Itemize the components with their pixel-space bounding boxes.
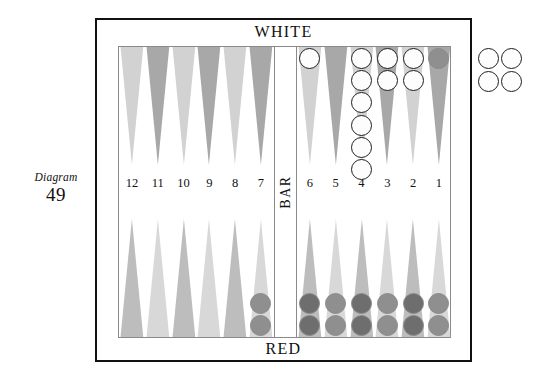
- point-8-bottom[interactable]: [222, 219, 248, 337]
- checker-white-point-2[interactable]: [403, 48, 424, 69]
- borne-off-checker-white[interactable]: [478, 71, 499, 92]
- checker-white-point-4[interactable]: [351, 48, 372, 69]
- checker-white-point-4[interactable]: [351, 137, 372, 158]
- checker-red-point-7[interactable]: [250, 293, 271, 314]
- point-5-top[interactable]: [323, 47, 349, 165]
- point-number-6: 6: [297, 176, 323, 191]
- checker-white-point-3[interactable]: [377, 48, 398, 69]
- point-number-5: 5: [323, 176, 349, 191]
- point-numbers-row: 121110987654321: [119, 176, 450, 210]
- checker-red-point-2[interactable]: [403, 315, 424, 336]
- point-number-10: 10: [171, 176, 197, 191]
- point-8-top[interactable]: [222, 47, 248, 165]
- borne-off-checker-white[interactable]: [478, 48, 499, 69]
- board-playing-surface: BAR 121110987654321: [118, 46, 451, 338]
- checker-red-point-2[interactable]: [403, 293, 424, 314]
- borne-off-tray[interactable]: [478, 48, 528, 98]
- point-number-11: 11: [145, 176, 171, 191]
- checker-white-point-3[interactable]: [377, 70, 398, 91]
- point-number-1: 1: [426, 176, 452, 191]
- point-number-3: 3: [374, 176, 400, 191]
- checker-white-point-4[interactable]: [351, 159, 372, 180]
- player-label-white: WHITE: [97, 23, 470, 41]
- point-10-bottom[interactable]: [171, 219, 197, 337]
- checker-white-point-4[interactable]: [351, 115, 372, 136]
- backgammon-board-frame: WHITE RED BAR 121110987654321: [95, 18, 472, 362]
- checker-red-point-1[interactable]: [428, 293, 449, 314]
- point-11-top[interactable]: [145, 47, 171, 165]
- point-7-top[interactable]: [248, 47, 274, 165]
- point-11-bottom[interactable]: [145, 219, 171, 337]
- checker-red-point-5[interactable]: [325, 293, 346, 314]
- point-9-top[interactable]: [196, 47, 222, 165]
- point-10-top[interactable]: [171, 47, 197, 165]
- player-label-red: RED: [97, 340, 470, 358]
- point-number-8: 8: [222, 176, 248, 191]
- point-number-2: 2: [400, 176, 426, 191]
- point-number-12: 12: [119, 176, 145, 191]
- checker-white-point-2[interactable]: [403, 70, 424, 91]
- borne-off-checker-white[interactable]: [501, 71, 522, 92]
- checker-red-point-3[interactable]: [377, 293, 398, 314]
- point-number-9: 9: [196, 176, 222, 191]
- point-12-bottom[interactable]: [119, 219, 145, 337]
- point-12-top[interactable]: [119, 47, 145, 165]
- diagram-caption-word: Diagram: [18, 172, 94, 184]
- checker-red-point-4[interactable]: [351, 293, 372, 314]
- checker-red-point-6[interactable]: [299, 293, 320, 314]
- diagram-caption-number: 49: [18, 185, 94, 204]
- point-9-bottom[interactable]: [196, 219, 222, 337]
- diagram-caption: Diagram 49: [18, 172, 94, 204]
- checker-red-point-4[interactable]: [351, 315, 372, 336]
- checker-red-point-3[interactable]: [377, 315, 398, 336]
- checker-red-point-5[interactable]: [325, 315, 346, 336]
- borne-off-checker-white[interactable]: [501, 48, 522, 69]
- point-number-7: 7: [248, 176, 274, 191]
